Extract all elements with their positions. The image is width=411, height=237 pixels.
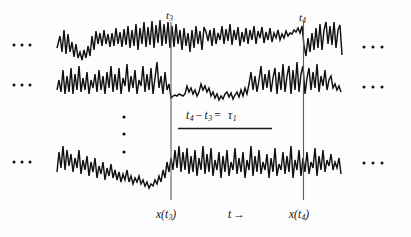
label-x-t3-bottom: x(t3) xyxy=(156,209,176,222)
trace-record-1 xyxy=(57,20,342,60)
ellipsis-right-row-3 xyxy=(363,162,384,165)
eq-equals: = xyxy=(212,109,222,121)
figure-root: t3 t4 t4−t3=τ1 x(t3) t→ x(t4) xyxy=(0,0,411,237)
eq-lhs-a: t4 xyxy=(186,109,194,121)
ellipsis-right-row-1 xyxy=(363,46,384,49)
equation-tau1: t4−t3=τ1 xyxy=(186,110,237,123)
ellipsis-left-row-2 xyxy=(13,84,32,87)
eq-rhs-tau: τ1 xyxy=(222,109,237,121)
trace-record-N xyxy=(57,146,341,188)
label-time-axis: t→ xyxy=(228,209,245,221)
label-t3-top: t3 xyxy=(166,10,173,22)
ellipsis-left-row-1 xyxy=(13,44,32,47)
eq-minus: − xyxy=(194,109,205,121)
ellipsis-left-row-3 xyxy=(13,161,32,164)
trace-record-2 xyxy=(57,62,341,100)
label-t4-top: t4 xyxy=(299,12,306,24)
label-x-t4-bottom: x(t4) xyxy=(289,209,309,222)
ellipsis-right-row-2 xyxy=(363,86,384,89)
ellipsis-vertical xyxy=(122,115,125,153)
